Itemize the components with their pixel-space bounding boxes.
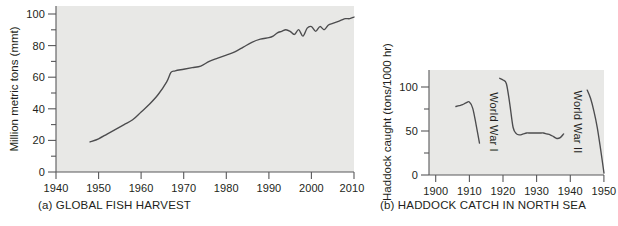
- chart-b-xtick-1950: 1950: [591, 185, 616, 197]
- chart-a-caption: (a) GLOBAL FISH HARVEST: [38, 199, 191, 211]
- chart-a-xtick-1990: 1990: [256, 182, 281, 194]
- chart-b-ytick-0: 0: [412, 169, 418, 181]
- chart-a-xtick-1970: 1970: [171, 182, 196, 194]
- chart-a-xtick-1960: 1960: [129, 182, 154, 194]
- chart-a-ytick-40: 40: [33, 103, 45, 115]
- chart-a-xtick-1940: 1940: [44, 182, 69, 194]
- chart-a-ytick-20: 20: [33, 134, 45, 146]
- chart-b-xtick-1900: 1900: [423, 185, 448, 197]
- chart-b-x-ticks: [436, 175, 604, 182]
- chart-b-xtick-1910: 1910: [457, 185, 482, 197]
- chart-b-caption: (b) HADDOCK CATCH IN NORTH SEA: [380, 199, 586, 211]
- chart-b-ytick-50: 50: [406, 125, 418, 137]
- chart-a-x-ticks: [56, 172, 354, 179]
- chart-a-xtick-2000: 2000: [299, 182, 324, 194]
- chart-b-y-ticks: [421, 87, 429, 175]
- chart-a-ytick-0: 0: [39, 166, 45, 178]
- chart-b-y-axis-title: Haddock caught (tons/1000 hr): [381, 43, 393, 201]
- chart-a-y-axis-title: Million metric tons (mmt): [8, 26, 20, 151]
- chart-a-xtick-1980: 1980: [214, 182, 239, 194]
- chart-a-ytick-80: 80: [33, 40, 45, 52]
- chart-a-plot-area: [56, 6, 354, 172]
- chart-a-ytick-100: 100: [26, 8, 45, 20]
- chart-a-y-minor-ticks: [51, 30, 56, 156]
- chart-b-xtick-1930: 1930: [524, 185, 549, 197]
- chart-b-ytick-100: 100: [399, 81, 418, 93]
- panel-global-fish-harvest: 0 20 40 60 80 100 1940 1950 1960 1970 19…: [0, 0, 360, 226]
- chart-b-xtick-1940: 1940: [558, 185, 583, 197]
- panel-haddock-catch: 0 50 100 1900 1910 1920 1930 1940 1950 H…: [360, 0, 618, 226]
- chart-a-ytick-60: 60: [33, 71, 45, 83]
- chart-b-svg: 0 50 100 1900 1910 1920 1930 1940 1950 H…: [360, 0, 618, 196]
- chart-a-xtick-1950: 1950: [86, 182, 111, 194]
- chart-b-xtick-1920: 1920: [491, 185, 516, 197]
- chart-b-annotation-world-war-2: World War II: [572, 91, 584, 154]
- figure-two-panel-fisheries: 0 20 40 60 80 100 1940 1950 1960 1970 19…: [0, 0, 618, 226]
- chart-a-svg: 0 20 40 60 80 100 1940 1950 1960 1970 19…: [0, 0, 360, 196]
- chart-b-annotation-world-war-1: World War I: [488, 92, 500, 152]
